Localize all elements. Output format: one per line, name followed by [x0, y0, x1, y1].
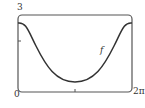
- curve-f: [18, 23, 132, 82]
- plot: [0, 0, 145, 108]
- origin-label: 0: [14, 90, 20, 99]
- plot-frame: [18, 15, 132, 92]
- curve-label: f: [100, 46, 103, 55]
- y-max-label: 3: [17, 3, 23, 12]
- x-max-label: 2π: [133, 87, 145, 96]
